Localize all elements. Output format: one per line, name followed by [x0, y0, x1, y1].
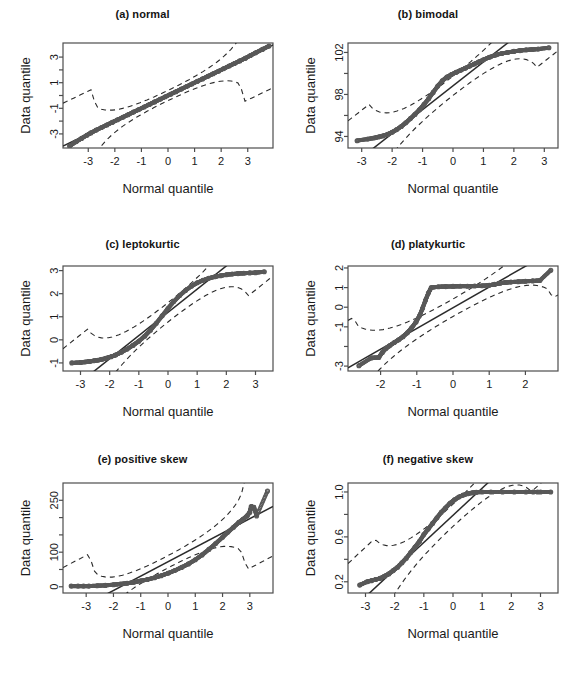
y-axis: 9498102 [333, 43, 348, 142]
x-tick-label: -3 [361, 600, 371, 612]
confidence-band [348, 0, 558, 121]
x-tick-label: -2 [376, 378, 386, 390]
y-tick-label: 3 [48, 54, 60, 60]
x-tick-label: 3 [541, 155, 547, 167]
y-tick-label: -3 [333, 361, 345, 371]
x-tick-label: -3 [357, 155, 367, 167]
y-axis-title: Data quantile [303, 500, 318, 577]
x-tick-label: 0 [450, 600, 456, 612]
x-axis: -3-2-10123 [357, 148, 548, 167]
y-tick-label: 0 [48, 337, 60, 343]
qq-panel-4: (d) platykurtic-2-1012-3-1012Normal quan… [285, 230, 571, 445]
y-axis-title: Data quantile [303, 280, 318, 357]
y-tick-label: 94 [333, 130, 345, 142]
qq-panel-3: (c) leptokurtic-3-2-10123-10123Normal qu… [0, 230, 285, 445]
reference-line [348, 3, 558, 168]
y-tick-label: 0 [48, 584, 60, 590]
x-tick-label: 2 [219, 600, 225, 612]
panel-plot: -3-2-10123-10123Normal quantileData quan… [0, 230, 285, 445]
x-tick-label: 0 [165, 378, 171, 390]
y-tick-label: 0.6 [333, 529, 345, 544]
x-tick-label: -2 [109, 600, 119, 612]
x-tick-label: -1 [419, 600, 429, 612]
panel-plot: -3-2-101230100250Normal quantileData qua… [0, 445, 285, 674]
x-tick-label: -1 [134, 378, 144, 390]
x-tick-label: -1 [412, 378, 422, 390]
qq-panel-6: (f) negative skew-3-2-101230.20.61.0Norm… [285, 445, 571, 674]
x-tick-label: 0 [165, 600, 171, 612]
extreme-points [70, 270, 266, 365]
x-tick-label: 1 [192, 155, 198, 167]
x-axis: -3-2-10123 [76, 371, 259, 390]
x-tick-label: -2 [110, 155, 120, 167]
y-tick-label: -1 [48, 358, 60, 368]
confidence-band [348, 445, 558, 564]
x-axis-title: Normal quantile [122, 626, 213, 641]
x-axis: -2-1012 [376, 371, 529, 390]
qq-plot-figure: (a) normal-3-2-10123-3-113Normal quantil… [0, 0, 571, 674]
x-tick-label: 1 [480, 155, 486, 167]
y-axis-title: Data quantile [18, 280, 33, 357]
y-tick-label: 2 [48, 291, 60, 297]
y-tick-label: 1 [48, 314, 60, 320]
y-axis-title: Data quantile [18, 500, 33, 577]
x-tick-label: 1 [194, 378, 200, 390]
y-tick-label: 100 [48, 543, 60, 561]
x-tick-label: -1 [136, 600, 146, 612]
x-tick-label: 0 [165, 155, 171, 167]
x-tick-label: -2 [105, 378, 115, 390]
confidence-band [63, 457, 273, 577]
x-tick-label: 3 [247, 600, 253, 612]
y-tick-label: 98 [333, 88, 345, 100]
y-tick-label: 1 [48, 80, 60, 86]
y-tick-label: 250 [48, 491, 60, 509]
x-tick-label: -1 [137, 155, 147, 167]
x-axis-title: Normal quantile [407, 181, 498, 196]
y-axis: -10123 [48, 268, 63, 368]
x-tick-label: 2 [522, 378, 528, 390]
plot-frame [63, 266, 273, 371]
x-axis-title: Normal quantile [407, 626, 498, 641]
y-tick-label: 0.2 [333, 574, 345, 589]
y-axis-title: Data quantile [303, 57, 318, 134]
y-tick-label: 3 [48, 268, 60, 274]
y-tick-label: -3 [48, 129, 60, 139]
panel-plot: -3-2-10123-3-113Normal quantileData quan… [0, 0, 285, 230]
x-tick-label: 3 [245, 155, 251, 167]
qq-panel-1: (a) normal-3-2-10123-3-113Normal quantil… [0, 0, 285, 230]
x-tick-label: -3 [76, 378, 86, 390]
x-tick-label: -2 [390, 600, 400, 612]
y-axis: 0100250 [48, 491, 63, 590]
x-tick-label: -1 [418, 155, 428, 167]
y-tick-label: 1 [333, 285, 345, 291]
y-tick-label: 2 [333, 265, 345, 271]
x-tick-label: 2 [223, 378, 229, 390]
x-tick-label: -3 [83, 155, 93, 167]
extreme-points [358, 490, 553, 587]
x-axis: -3-2-10123 [83, 148, 250, 167]
plot-frame [63, 483, 273, 593]
qq-panel-2: (b) bimodal-3-2-101239498102Normal quant… [285, 0, 571, 230]
x-tick-label: 2 [508, 600, 514, 612]
x-axis-title: Normal quantile [122, 404, 213, 419]
x-axis-title: Normal quantile [122, 181, 213, 196]
x-tick-label: 2 [218, 155, 224, 167]
y-axis: -3-1012 [333, 265, 348, 371]
x-tick-label: -3 [81, 600, 91, 612]
data-points [356, 46, 551, 142]
plot-frame [348, 43, 558, 148]
reference-line [348, 445, 558, 613]
x-tick-label: 0 [450, 378, 456, 390]
x-tick-label: 2 [511, 155, 517, 167]
x-tick-label: 3 [252, 378, 258, 390]
x-axis-title: Normal quantile [407, 404, 498, 419]
y-axis-title: Data quantile [18, 57, 33, 134]
qq-panel-5: (e) positive skew-3-2-101230100250Normal… [0, 445, 285, 674]
y-tick-label: -1 [48, 103, 60, 113]
x-tick-label: 0 [450, 155, 456, 167]
data-points [357, 269, 552, 368]
panel-plot: -3-2-101230.20.61.0Normal quantileData q… [285, 445, 571, 674]
x-tick-label: 1 [192, 600, 198, 612]
data-points [70, 489, 269, 587]
y-tick-label: 0 [333, 304, 345, 310]
